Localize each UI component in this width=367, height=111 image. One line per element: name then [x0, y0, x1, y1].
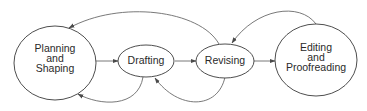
node-planning-and-shaping: Planning and Shaping [14, 26, 96, 100]
node-label-line: Proofreading [286, 61, 346, 73]
node-label-line: Shaping [36, 62, 75, 74]
edge-revising-to-drafting [155, 77, 225, 102]
edge-revising-to-planning [69, 12, 219, 44]
writing-process-diagram: Planning and Shaping Drafting Revising E… [0, 0, 367, 111]
node-label-line: Revising [205, 54, 245, 66]
node-drafting: Drafting [118, 45, 174, 77]
node-label-line: Drafting [128, 54, 165, 66]
node-editing-and-proofreading: Editing and Proofreading [275, 24, 357, 96]
node-revising: Revising [196, 44, 254, 78]
